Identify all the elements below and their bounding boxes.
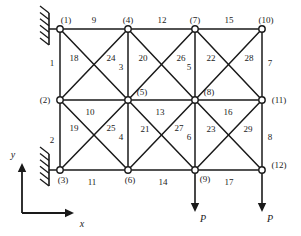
element-label-1: 1 xyxy=(50,59,55,68)
element-label-24: 24 xyxy=(107,54,116,63)
element-label-22: 22 xyxy=(207,54,216,63)
element-label-25: 25 xyxy=(107,124,116,133)
truss-node xyxy=(125,97,131,103)
element-label-23: 23 xyxy=(207,125,216,134)
truss-node xyxy=(192,26,198,32)
element-label-17: 17 xyxy=(225,178,234,187)
node-label-12: (12) xyxy=(272,161,287,170)
element-label-4: 4 xyxy=(119,133,124,142)
node-label-7: (7) xyxy=(190,16,201,25)
node-label-1: (1) xyxy=(61,16,72,25)
node-label-3: (3) xyxy=(58,176,69,185)
node-label-6: (6) xyxy=(125,176,136,185)
element-label-18: 18 xyxy=(70,54,79,63)
element-label-6: 6 xyxy=(187,133,192,142)
truss-node xyxy=(192,167,198,173)
element-label-20: 20 xyxy=(139,54,148,63)
load-label-2: P xyxy=(267,214,273,224)
element-label-2: 2 xyxy=(50,136,55,145)
element-label-13: 13 xyxy=(156,108,165,117)
node-label-2: (2) xyxy=(40,96,51,105)
element-label-21: 21 xyxy=(141,125,150,134)
element-label-29: 29 xyxy=(244,125,253,134)
element-label-5: 5 xyxy=(187,63,192,72)
element-label-16: 16 xyxy=(224,108,233,117)
truss-node xyxy=(192,97,198,103)
element-label-7: 7 xyxy=(268,59,273,68)
node-label-11: (11) xyxy=(272,96,287,105)
element-label-26: 26 xyxy=(177,54,186,63)
truss-node xyxy=(259,167,265,173)
x-axis-label: x xyxy=(80,219,84,229)
element-label-14: 14 xyxy=(159,178,168,187)
load-label-1: P xyxy=(200,214,206,224)
truss-node xyxy=(125,167,131,173)
truss-node xyxy=(57,26,63,32)
node-label-9: (9) xyxy=(200,175,211,184)
truss-node xyxy=(57,97,63,103)
element-label-11: 11 xyxy=(88,178,97,187)
truss-node xyxy=(259,26,265,32)
truss-node xyxy=(57,167,63,173)
y-axis-label: y xyxy=(11,150,15,160)
element-label-3: 3 xyxy=(119,63,124,72)
node-label-8: (8) xyxy=(204,88,215,97)
element-label-10: 10 xyxy=(86,108,95,117)
element-label-12: 12 xyxy=(158,16,167,25)
truss-node xyxy=(259,97,265,103)
truss-diagram xyxy=(0,0,301,236)
element-label-27: 27 xyxy=(175,124,184,133)
truss-node xyxy=(125,26,131,32)
element-label-9: 9 xyxy=(92,16,97,25)
element-label-8: 8 xyxy=(268,133,273,142)
node-label-4: (4) xyxy=(123,16,134,25)
element-label-19: 19 xyxy=(70,124,79,133)
element-label-28: 28 xyxy=(245,54,254,63)
node-label-10: (10) xyxy=(259,16,274,25)
node-label-5: (5) xyxy=(137,88,148,97)
element-label-15: 15 xyxy=(225,16,234,25)
